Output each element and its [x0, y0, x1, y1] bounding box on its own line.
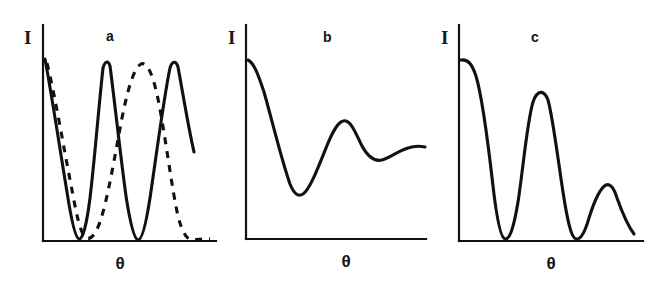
panel-b: I b θ: [228, 0, 438, 292]
panel-letter-c: c: [531, 30, 539, 44]
curve-a-solid: [45, 59, 194, 240]
y-axis-label-a: I: [24, 28, 31, 47]
curve-b-solid: [248, 60, 425, 195]
x-axis-label-b: θ: [326, 253, 366, 270]
plot-area-a: [0, 0, 230, 250]
x-axis-label-c: θ: [531, 255, 571, 272]
panel-a: I a θ: [0, 0, 230, 292]
x-axis-label-a: θ: [100, 255, 140, 272]
y-axis-label-b: I: [228, 28, 235, 47]
figure-root: I a θ I b θ I c θ: [0, 0, 663, 292]
y-axis-label-c: I: [441, 28, 448, 47]
plot-area-b: [228, 0, 438, 250]
plot-area-c: [438, 0, 663, 250]
panel-c: I c θ: [438, 0, 663, 292]
curve-c-solid: [461, 60, 634, 239]
panel-letter-a: a: [106, 29, 114, 43]
panel-letter-b: b: [323, 30, 332, 44]
